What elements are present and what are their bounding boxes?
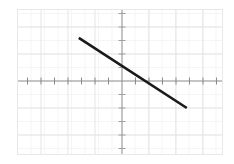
- graph-canvas: [0, 0, 234, 164]
- coordinate-plane-graph: [0, 0, 234, 164]
- plot-frame: [18, 10, 223, 155]
